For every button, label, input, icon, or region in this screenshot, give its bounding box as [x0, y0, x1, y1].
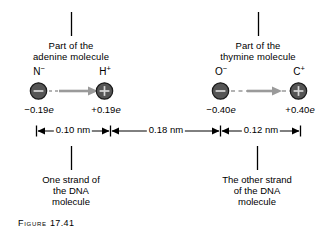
atom-symbol-hydrogen-charge: + [106, 64, 110, 73]
atom-hydrogen [96, 83, 112, 99]
charge-number-nitrogen: −0.19 [24, 104, 48, 115]
charge-value-oxygen: −0.40e [206, 104, 235, 115]
bond-arrowhead-right [272, 87, 282, 96]
atom-carbon [290, 83, 306, 99]
charge-value-nitrogen: −0.19e [24, 104, 53, 115]
atom-symbol-oxygen-element: O [215, 66, 223, 77]
label-adenine-molecule: Part of the adenine molecule [33, 40, 109, 62]
charge-unit-oxygen: e [230, 104, 235, 115]
atom-symbol-nitrogen: N− [33, 66, 45, 78]
label-other-strand-line1: The other strand [222, 174, 292, 185]
figure-caption-prefix: Figure [18, 218, 47, 228]
figure-caption-number: 17.41 [50, 218, 75, 228]
atom-symbol-carbon-charge: + [300, 64, 304, 73]
charge-unit-carbon: e [309, 104, 314, 115]
dim-arrowhead-3-left [222, 127, 230, 134]
label-one-strand-line2: the DNA [42, 185, 100, 196]
charge-number-hydrogen: +0.19 [91, 104, 115, 115]
charge-number-oxygen: −0.40 [206, 104, 230, 115]
label-thymine-line2: thymine molecule [220, 51, 296, 62]
dim-arrowhead-3-right [292, 127, 300, 134]
dimension-label-thymine-bond: 0.12 nm [242, 124, 280, 135]
atom-oxygen [212, 83, 228, 99]
charge-number-carbon: +0.40 [285, 104, 309, 115]
label-other-strand-line3: molecule [222, 196, 292, 207]
label-other-strand-line2: of the DNA [222, 185, 292, 196]
dimension-label-adenine-bond: 0.10 nm [54, 124, 92, 135]
figure-caption: Figure 17.41 [18, 218, 74, 228]
dim-arrowhead-2-left [112, 127, 120, 134]
label-other-strand: The other strand of the DNA molecule [222, 174, 292, 208]
label-adenine-line2: adenine molecule [33, 51, 109, 62]
label-thymine-line1: Part of the [220, 40, 296, 51]
label-thymine-molecule: Part of the thymine molecule [220, 40, 296, 62]
atom-symbol-oxygen: O− [215, 66, 227, 78]
charge-value-hydrogen: +0.19e [91, 104, 120, 115]
dim-arrowhead-2-right [212, 127, 220, 134]
label-one-strand-line1: One strand of [42, 174, 100, 185]
label-adenine-line1: Part of the [33, 40, 109, 51]
atom-nitrogen [30, 83, 46, 99]
dim-arrowhead-1-right [102, 127, 110, 134]
atom-symbol-hydrogen: H+ [99, 66, 111, 78]
figure-container: Part of the adenine molecule Part of the… [0, 0, 326, 240]
label-one-strand: One strand of the DNA molecule [42, 174, 100, 208]
atom-symbol-nitrogen-charge: − [40, 64, 44, 73]
charge-unit-nitrogen: e [48, 104, 53, 115]
atom-symbol-carbon: C+ [293, 66, 305, 78]
dim-arrowhead-1-left [38, 127, 46, 134]
charge-value-carbon: +0.40e [285, 104, 314, 115]
charge-unit-hydrogen: e [115, 104, 120, 115]
atom-symbol-oxygen-charge: − [223, 64, 227, 73]
dimension-label-hydrogen-bond-gap: 0.18 nm [147, 124, 185, 135]
label-one-strand-line3: molecule [42, 196, 100, 207]
